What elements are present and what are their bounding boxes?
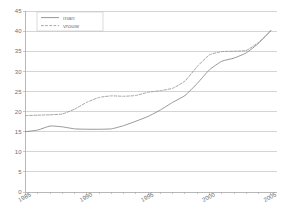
y-axis-tick-label: 5 [18,169,22,175]
x-axis-tick-labels: 19851990199520002005 [17,191,278,203]
series-line-man [26,30,271,131]
y-axis [23,11,25,192]
y-axis-tick-label: 45 [15,8,22,14]
x-axis-tick-label: 1990 [79,191,94,203]
legend-label-vrouw: vrouw [63,23,80,29]
data-series [26,30,271,131]
x-axis-tick-label: 1995 [140,191,155,203]
y-axis-tick-label: 25 [15,89,22,95]
y-axis-tick-label: 20 [15,109,22,115]
chart-canvas: 051015202530354045 19851990199520002005 … [0,0,285,218]
y-axis-tick-label: 0 [18,189,22,195]
chart-legend: manvrouw [37,12,103,31]
y-axis-tick-label: 35 [15,48,22,54]
y-axis-tick-label: 10 [15,149,22,155]
series-line-vrouw [26,31,271,115]
legend-label-man: man [63,15,75,21]
y-axis-tick-label: 15 [15,129,22,135]
x-axis-tick-label: 2005 [263,191,278,203]
y-axis-tick-label: 40 [15,28,22,34]
y-axis-tick-labels: 051015202530354045 [15,8,22,195]
line-chart-figure: 051015202530354045 19851990199520002005 … [0,0,285,218]
x-axis-tick-label: 2000 [201,191,216,203]
y-axis-tick-label: 30 [15,69,22,75]
